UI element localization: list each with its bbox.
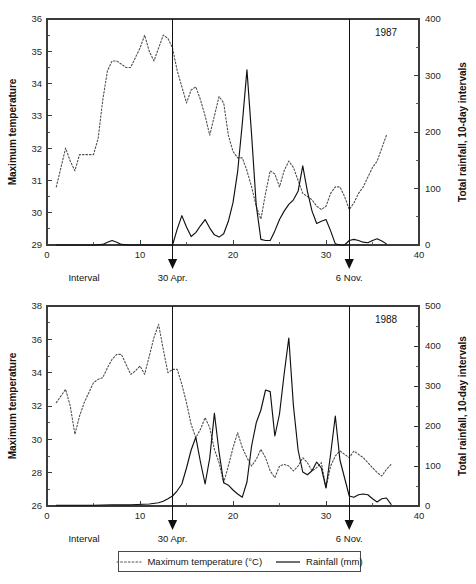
- y-right-tick-label: 400: [425, 13, 441, 24]
- rainfall-line: [56, 70, 386, 245]
- legend-entry-temperature: Maximum temperature (°C): [116, 556, 262, 567]
- marker-label: 6 Nov.: [336, 533, 363, 544]
- y-right-tick-label: 500: [425, 300, 441, 311]
- marker-arrow-icon: [168, 259, 177, 269]
- year-label-1987: 1987: [375, 27, 398, 38]
- figure-legend: Maximum temperature (°C) Rainfall (mm): [118, 551, 361, 572]
- y-axis-left-title-1988: Maximum temperature: [7, 352, 18, 459]
- y-right-tick-label: 100: [425, 460, 441, 471]
- y-left-tick-label: 35: [31, 46, 42, 57]
- y-axis-right-title-1988: Total rainfall, 10-day intervals: [457, 336, 468, 476]
- year-label-1988: 1988: [375, 314, 398, 325]
- rainfall-line: [56, 338, 391, 505]
- y-left-tick-label: 36: [31, 334, 42, 345]
- axis-tick-labels-1987: 29303132333435360100200300400010203040: [31, 13, 440, 260]
- x-tick-label: 30: [321, 510, 332, 521]
- x-tick-label: 0: [44, 510, 49, 521]
- y-axis-left-title-1987: Maximum temperature: [7, 78, 18, 185]
- y-left-tick-label: 34: [31, 367, 42, 378]
- event-markers-1988: 30 Apr.6 Nov.: [158, 306, 363, 544]
- x-axis-title-1987: Interval: [68, 272, 99, 283]
- y-left-tick-label: 34: [31, 78, 42, 89]
- chart-panel-1988: 262830323436380100200300400500010203040 …: [0, 292, 476, 550]
- y-right-tick-label: 0: [425, 500, 430, 511]
- y-left-tick-label: 30: [31, 434, 42, 445]
- legend-entry-rainfall: Rainfall (mm): [275, 556, 362, 567]
- y-right-tick-label: 400: [425, 340, 441, 351]
- marker-arrow-icon: [345, 259, 354, 269]
- y-left-tick-label: 26: [31, 500, 42, 511]
- chart-panel-1987: 29303132333435360100200300400010203040 3…: [0, 0, 476, 292]
- axis-tick-labels-1988: 262830323436380100200300400500010203040: [31, 300, 440, 521]
- data-series-1988: [56, 324, 391, 505]
- y-left-tick-label: 33: [31, 110, 42, 121]
- x-tick-label: 30: [321, 249, 332, 260]
- marker-arrow-icon: [345, 520, 354, 530]
- plot-frame-1987: [47, 19, 419, 245]
- y-axis-right-title-1987: Total rainfall, 10-day intervals: [457, 62, 468, 202]
- y-right-tick-label: 200: [425, 420, 441, 431]
- event-markers-1987: 30 Apr.6 Nov.: [158, 19, 363, 283]
- y-left-tick-label: 29: [31, 239, 42, 250]
- legend-label-temperature: Maximum temperature (°C): [147, 556, 262, 567]
- x-tick-label: 20: [228, 249, 239, 260]
- temperature-line: [56, 35, 386, 219]
- plot-frame-1988: [47, 306, 419, 506]
- x-tick-label: 40: [414, 510, 425, 521]
- y-right-tick-label: 100: [425, 183, 441, 194]
- y-right-tick-label: 300: [425, 70, 441, 81]
- y-right-tick-label: 200: [425, 126, 441, 137]
- x-tick-label: 10: [135, 249, 146, 260]
- axis-ticks-1987: [47, 19, 419, 245]
- y-right-tick-label: 300: [425, 380, 441, 391]
- x-axis-title-1988: Interval: [68, 533, 99, 544]
- chart-svg-1988: 262830323436380100200300400500010203040 …: [0, 292, 476, 550]
- weather-figure: 29303132333435360100200300400010203040 3…: [0, 0, 476, 584]
- solid-line-icon: [275, 558, 301, 566]
- x-tick-label: 10: [135, 510, 146, 521]
- y-left-tick-label: 38: [31, 300, 42, 311]
- y-left-tick-label: 28: [31, 467, 42, 478]
- y-left-tick-label: 31: [31, 175, 42, 186]
- data-series-1987: [56, 35, 386, 245]
- marker-arrow-icon: [168, 520, 177, 530]
- axis-ticks-1988: [47, 306, 419, 506]
- y-left-tick-label: 30: [31, 207, 42, 218]
- caption-clipped: [0, 578, 476, 584]
- x-tick-label: 40: [414, 249, 425, 260]
- marker-label: 30 Apr.: [158, 272, 188, 283]
- marker-label: 30 Apr.: [158, 533, 188, 544]
- x-tick-label: 0: [44, 249, 49, 260]
- y-right-tick-label: 0: [425, 239, 430, 250]
- chart-svg-1987: 29303132333435360100200300400010203040 3…: [0, 0, 476, 292]
- y-left-tick-label: 32: [31, 143, 42, 154]
- legend-label-rainfall: Rainfall (mm): [306, 556, 362, 567]
- x-tick-label: 20: [228, 510, 239, 521]
- y-left-tick-label: 36: [31, 13, 42, 24]
- marker-label: 6 Nov.: [336, 272, 363, 283]
- dotted-line-icon: [116, 558, 142, 566]
- y-left-tick-label: 32: [31, 400, 42, 411]
